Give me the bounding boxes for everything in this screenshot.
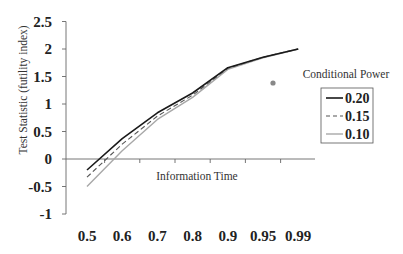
y-axis-title: Test Statistic (futility index)	[17, 25, 30, 154]
annotations	[270, 80, 275, 85]
y-tick-label: 2.5	[33, 14, 52, 30]
line-chart: 2.521.510.50-0.5-1 0.50.60.70.80.90.950.…	[0, 0, 403, 254]
y-axis: 2.521.510.50-0.5-1	[28, 14, 66, 223]
y-tick-label: 0	[45, 151, 53, 167]
y-tick-label: 1	[45, 96, 53, 112]
legend-title: Conditional Power	[303, 68, 390, 80]
series-line-0-10	[87, 49, 298, 187]
series-lines	[87, 49, 298, 187]
x-tick-label: 0.7	[148, 228, 167, 244]
x-tick-label: 0.6	[113, 228, 132, 244]
x-tick-label: 0.99	[285, 228, 311, 244]
legend: Conditional Power 0.200.150.10	[303, 68, 390, 143]
x-tick-label: 0.8	[183, 228, 202, 244]
y-tick-label: -1	[40, 206, 53, 222]
stray-dot-marker	[270, 80, 275, 85]
y-tick-label: 0.5	[33, 124, 52, 140]
y-tick-label: -0.5	[28, 179, 52, 195]
legend-label: 0.20	[345, 91, 370, 106]
y-tick-label: 1.5	[33, 69, 52, 85]
x-tick-label: 0.5	[78, 228, 97, 244]
legend-label: 0.10	[345, 127, 370, 142]
x-tick-label: 0.9	[218, 228, 237, 244]
legend-label: 0.15	[345, 109, 370, 124]
series-line-0-15	[87, 49, 298, 177]
x-axis-title: Information Time	[156, 170, 237, 182]
y-tick-label: 2	[45, 41, 53, 57]
series-line-0-20	[87, 49, 298, 170]
x-tick-label: 0.95	[250, 228, 276, 244]
